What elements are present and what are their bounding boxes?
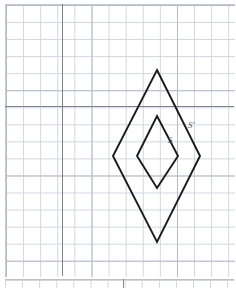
secondary-sheet-axis-tick [123,279,124,288]
label-s-prime: S' [188,121,194,130]
rhombus-figure-group [0,0,236,288]
worksheet-figure: S S' [0,0,236,288]
secondary-graph-paper-strip [5,279,234,288]
inner-rhombus-shape [137,116,178,188]
label-s: S [168,136,173,145]
outer-rhombus-shape [113,70,200,242]
